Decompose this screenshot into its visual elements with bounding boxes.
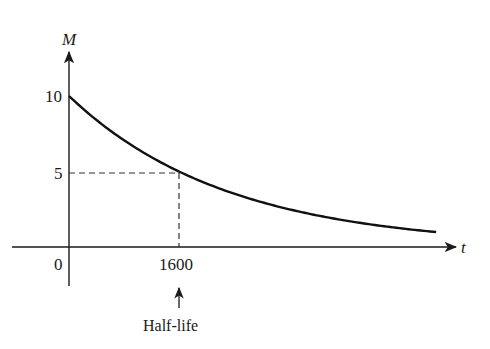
x-tick-label-0: 0 [54,256,63,273]
x-tick-label-1600: 1600 [159,256,193,273]
half-life-annotation: Half-life [143,318,198,334]
decay-curve [69,96,436,232]
x-axis-label: t [461,239,466,256]
y-tick-label-10: 10 [45,88,62,105]
y-axis-label: M [62,31,76,48]
y-tick-label-5: 5 [54,165,63,182]
half-life-decay-chart [0,0,490,349]
